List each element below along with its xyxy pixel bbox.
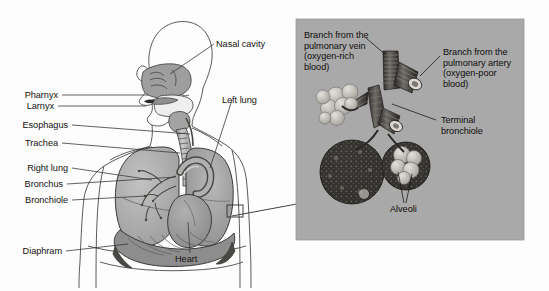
alveolar-cluster-dark-small <box>382 142 430 190</box>
alveolar-cluster-dark-large <box>320 140 384 204</box>
label-terminal-bronchiole: Terminal bronchiole <box>441 115 503 136</box>
label-nasal-cavity: Nasal cavity <box>216 39 265 50</box>
label-pharynx-line: Pharnyx <box>0 90 58 101</box>
heart <box>168 194 212 247</box>
label-diaphragm: Diaphram <box>0 246 62 257</box>
label-pulmonary-artery: Branch from the pulmonary artery (oxygen… <box>443 47 517 89</box>
label-left-lung: Left lung <box>222 95 257 106</box>
label-alveoli: Alveoli <box>390 204 417 215</box>
label-bronchus: Bronchus <box>0 179 63 190</box>
diagram-artwork <box>0 0 549 291</box>
label-larynx: Larnyx <box>0 101 54 112</box>
label-pulmonary-vein: Branch from the pulmonary vein (oxygen-r… <box>304 30 372 72</box>
label-heart: Heart <box>175 254 197 265</box>
label-esophagus: Esophagus <box>0 120 68 131</box>
label-right-lung: Right lung <box>0 163 68 174</box>
respiratory-system-figure: Pharnyx Larnyx Esophagus Trachea Right l… <box>0 0 549 291</box>
label-bronchiole: Bronchiole <box>0 195 68 206</box>
label-trachea: Trachea <box>0 138 58 149</box>
